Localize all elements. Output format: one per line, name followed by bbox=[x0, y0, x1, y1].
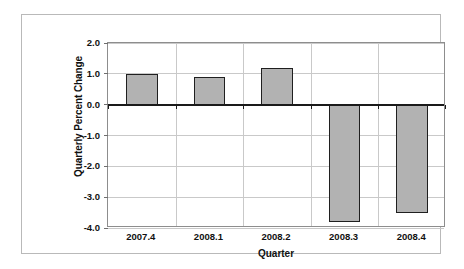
y-axis-tick-labels: 2.01.00.0-1.0-2.0-3.0-4.0 bbox=[62, 42, 100, 227]
x-axis-title: Quarter bbox=[107, 248, 445, 259]
y-tick-label: -1.0 bbox=[62, 129, 100, 140]
y-tick-mark bbox=[104, 228, 108, 229]
x-tick-label: 2008.1 bbox=[194, 231, 223, 242]
gridline-vertical bbox=[243, 43, 244, 226]
bar bbox=[126, 74, 158, 105]
y-tick-label: 2.0 bbox=[62, 37, 100, 48]
x-tick-mark bbox=[243, 105, 244, 109]
y-tick-label: -4.0 bbox=[62, 222, 100, 233]
y-tick-mark bbox=[104, 73, 108, 74]
y-tick-mark bbox=[104, 43, 108, 44]
x-tick-mark bbox=[176, 105, 177, 109]
plot-area bbox=[107, 42, 445, 227]
y-tick-mark bbox=[104, 166, 108, 167]
x-tick-label: 2008.3 bbox=[329, 231, 358, 242]
gridline-horizontal bbox=[108, 228, 444, 229]
y-tick-label: 0.0 bbox=[62, 98, 100, 109]
x-tick-mark bbox=[445, 105, 446, 109]
gridline-horizontal bbox=[108, 166, 444, 167]
figure-frame: Quarterly Percent Change 2.01.00.0-1.0-2… bbox=[21, 14, 441, 254]
bar bbox=[261, 68, 293, 105]
gridline-vertical bbox=[378, 43, 379, 226]
y-tick-label: 1.0 bbox=[62, 67, 100, 78]
bar bbox=[194, 77, 226, 105]
x-tick-label: 2007.4 bbox=[126, 231, 155, 242]
gridline-horizontal bbox=[108, 197, 444, 198]
bar bbox=[396, 105, 428, 213]
bar bbox=[329, 105, 361, 222]
chart-page: Quarterly Percent Change 2.01.00.0-1.0-2… bbox=[0, 0, 464, 269]
x-axis-tick-labels: 2007.42008.12008.22008.32008.4 bbox=[107, 231, 445, 247]
zero-axis-line bbox=[108, 104, 444, 106]
y-tick-mark bbox=[104, 197, 108, 198]
y-tick-mark bbox=[104, 135, 108, 136]
x-tick-mark bbox=[378, 105, 379, 109]
gridline-horizontal bbox=[108, 135, 444, 136]
y-tick-label: -3.0 bbox=[62, 191, 100, 202]
x-tick-label: 2008.2 bbox=[261, 231, 290, 242]
y-tick-label: -2.0 bbox=[62, 160, 100, 171]
gridline-horizontal bbox=[108, 43, 444, 44]
gridline-vertical bbox=[176, 43, 177, 226]
x-tick-mark bbox=[311, 105, 312, 109]
gridline-vertical bbox=[311, 43, 312, 226]
x-tick-mark bbox=[108, 105, 109, 109]
x-tick-label: 2008.4 bbox=[397, 231, 426, 242]
